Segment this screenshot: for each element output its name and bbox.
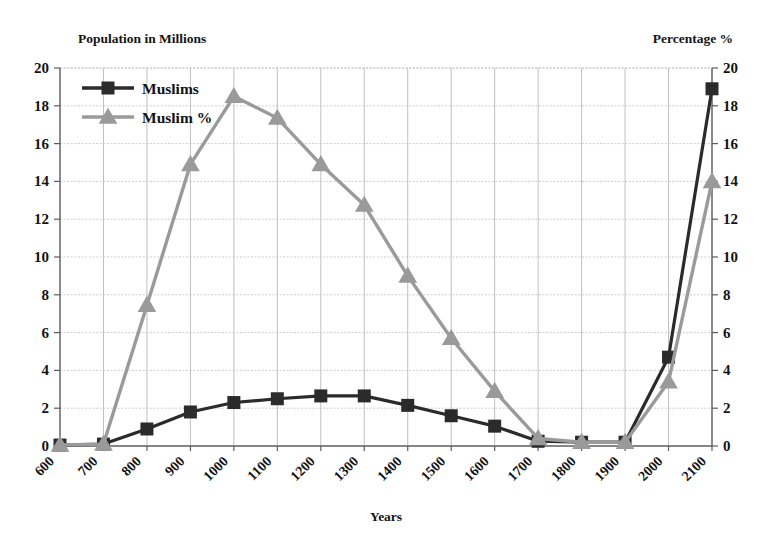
- x-axis-tick-label: 600: [32, 454, 57, 479]
- data-point-square: [706, 82, 719, 95]
- left-axis-tick-label: 10: [34, 249, 49, 265]
- right-axis-tick-label: 16: [723, 136, 739, 152]
- right-axis-tick-label: 12: [723, 211, 738, 227]
- data-point-square: [488, 420, 501, 433]
- left-axis-tick-label: 18: [34, 98, 49, 114]
- right-axis-tick-label: 20: [723, 60, 738, 76]
- x-axis-tick-label: 1000: [201, 454, 231, 484]
- data-point-square: [102, 82, 115, 95]
- data-point-square: [358, 389, 371, 402]
- left-axis-tick-label: 14: [34, 173, 50, 189]
- x-axis-tick-label: 1700: [505, 454, 535, 484]
- x-axis-tick-label: 1100: [245, 454, 275, 484]
- data-point-square: [227, 396, 240, 409]
- data-point-square: [271, 392, 284, 405]
- data-point-square: [445, 409, 458, 422]
- data-point-square: [401, 399, 414, 412]
- data-point-square: [140, 422, 153, 435]
- legend-label-muslim-percent: Muslim %: [142, 109, 212, 126]
- x-axis-tick-label: 2100: [679, 454, 709, 484]
- x-axis-tick-label: 2000: [635, 454, 665, 484]
- x-axis-tick-label: 700: [75, 454, 100, 479]
- left-axis-tick-label: 4: [42, 362, 50, 378]
- x-axis-tick-label: 1800: [548, 454, 578, 484]
- left-axis-title: Population in Millions: [78, 31, 206, 46]
- chart-container: 0246810121416182002468101214161820600700…: [0, 0, 769, 542]
- left-axis-tick-label: 20: [34, 60, 49, 76]
- left-axis-tick-label: 6: [42, 325, 50, 341]
- x-axis-tick-label: 1200: [288, 454, 318, 484]
- right-axis-tick-label: 8: [723, 287, 731, 303]
- left-axis-tick-label: 8: [42, 287, 50, 303]
- right-axis-tick-label: 18: [723, 98, 738, 114]
- x-axis-tick-label: 800: [119, 454, 144, 479]
- right-axis-tick-label: 14: [723, 173, 739, 189]
- legend-label-muslims: Muslims: [142, 80, 199, 97]
- right-axis-tick-label: 10: [723, 249, 738, 265]
- x-axis-tick-label: 1300: [331, 454, 361, 484]
- x-axis-title: Years: [370, 509, 402, 524]
- data-point-square: [184, 405, 197, 418]
- right-axis-title: Percentage %: [653, 31, 733, 46]
- right-axis-tick-label: 4: [723, 362, 731, 378]
- x-axis-tick-label: 1900: [592, 454, 622, 484]
- x-axis-tick-label: 1600: [461, 454, 491, 484]
- x-axis-tick-label: 900: [162, 454, 187, 479]
- right-axis-tick-label: 2: [723, 400, 731, 416]
- left-axis-tick-label: 12: [34, 211, 49, 227]
- data-point-square: [314, 389, 327, 402]
- x-axis-tick-label: 1400: [374, 454, 404, 484]
- right-axis-tick-label: 6: [723, 325, 731, 341]
- right-axis-tick-label: 0: [723, 438, 731, 454]
- left-axis-tick-label: 0: [42, 438, 50, 454]
- left-axis-tick-label: 16: [34, 136, 50, 152]
- left-axis-tick-label: 2: [42, 400, 50, 416]
- x-axis-tick-label: 1500: [418, 454, 448, 484]
- dual-axis-line-chart: 0246810121416182002468101214161820600700…: [0, 0, 769, 542]
